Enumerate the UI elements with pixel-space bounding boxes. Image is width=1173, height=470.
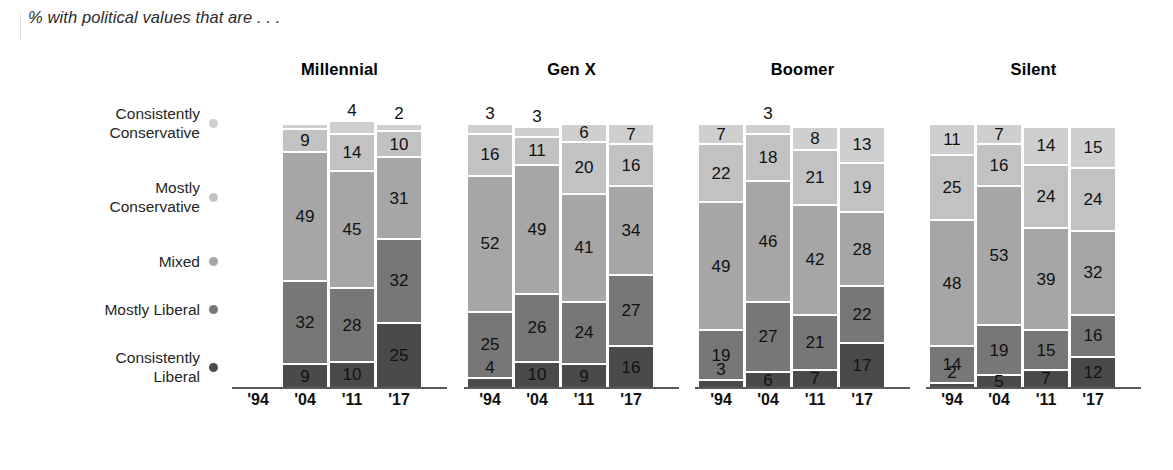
bar-segment-value: 13 xyxy=(853,136,872,153)
bar-segment[interactable]: 17 xyxy=(840,342,884,387)
bar-segment[interactable]: 49 xyxy=(283,151,327,279)
bar-segment[interactable]: 3 xyxy=(468,125,512,133)
bar-segment[interactable]: 10 xyxy=(515,361,559,387)
bar-segment-value: 15 xyxy=(1084,139,1103,156)
bar-segment[interactable]: 9 xyxy=(562,363,606,387)
bar-segment[interactable]: 20 xyxy=(562,141,606,193)
bar-segment[interactable]: 11 xyxy=(515,136,559,165)
bar-segment[interactable]: 16 xyxy=(468,133,512,175)
legend-item-consistently_conservative[interactable]: Consistently Conservative xyxy=(0,104,218,142)
stacked-bar[interactable]: 716342716 xyxy=(609,125,653,387)
bar-segment[interactable]: 27 xyxy=(609,274,653,345)
bar-segment[interactable]: 24 xyxy=(562,301,606,364)
bar-segment[interactable]: 42 xyxy=(793,204,837,314)
bar-segment[interactable]: 19 xyxy=(977,324,1021,374)
bar-segment[interactable]: 16 xyxy=(1071,314,1115,356)
bar-segment[interactable]: 49 xyxy=(515,164,559,292)
bar-segment[interactable]: 28 xyxy=(840,211,884,284)
x-axis-line xyxy=(232,387,447,389)
bar-segment[interactable]: 7 xyxy=(699,125,743,143)
bar-segment[interactable]: 16 xyxy=(609,345,653,387)
stacked-bar[interactable]: 414452810 xyxy=(330,122,374,387)
legend-item-mixed[interactable]: Mixed xyxy=(0,252,218,271)
bar-segment[interactable]: 7 xyxy=(1024,369,1068,387)
bar-segment[interactable]: 13 xyxy=(840,128,884,162)
bar-segment[interactable]: 28 xyxy=(330,287,374,360)
bar-segment[interactable]: 15 xyxy=(1071,128,1115,167)
x-axis-tick-label: '04 xyxy=(283,391,327,409)
stacked-bar[interactable]: 31652254 xyxy=(468,125,512,387)
bar-segment[interactable]: 15 xyxy=(1024,329,1068,368)
bar-segment[interactable]: 6 xyxy=(746,371,790,387)
bar-segment[interactable]: 34 xyxy=(609,185,653,274)
bar-segment[interactable]: 53 xyxy=(977,185,1021,324)
stacked-bar[interactable]: 31846276 xyxy=(746,125,790,387)
bar-segment-value: 9 xyxy=(300,368,309,385)
stacked-bar[interactable]: 949329 xyxy=(283,125,327,387)
stacked-bar[interactable]: 82142217 xyxy=(793,128,837,387)
bar-segment[interactable]: 32 xyxy=(283,280,327,364)
legend-item-mostly_conservative[interactable]: Mostly Conservative xyxy=(0,178,218,216)
bar-segment[interactable]: 24 xyxy=(1024,164,1068,227)
stacked-bar[interactable]: 72249193 xyxy=(699,125,743,387)
bar-segment[interactable]: 16 xyxy=(977,143,1021,185)
bar-segment[interactable]: 3 xyxy=(515,128,559,136)
bar-segment[interactable]: 27 xyxy=(746,301,790,372)
bar-segment[interactable]: 45 xyxy=(330,170,374,288)
bar-segment-value: 49 xyxy=(712,258,731,275)
bar-segment[interactable]: 52 xyxy=(468,175,512,311)
bar-segment[interactable]: 26 xyxy=(515,293,559,361)
stacked-bar[interactable]: 71653195 xyxy=(977,125,1021,387)
bar-segment[interactable]: 7 xyxy=(609,125,653,143)
bar-segment[interactable]: 9 xyxy=(283,363,327,387)
bar-segment[interactable]: 10 xyxy=(377,130,421,156)
bar-segment[interactable]: 19 xyxy=(840,162,884,212)
bar-segment[interactable]: 6 xyxy=(562,125,606,141)
stacked-bar[interactable]: 210313225 xyxy=(377,125,421,387)
bar-segment[interactable]: 22 xyxy=(699,143,743,201)
legend-item-consistently_liberal[interactable]: Consistently Liberal xyxy=(0,348,218,386)
bar-segment[interactable]: 48 xyxy=(930,219,974,345)
bar-segment[interactable]: 22 xyxy=(840,285,884,343)
bar-segment[interactable]: 14 xyxy=(1024,128,1068,165)
bar-segment[interactable]: 25 xyxy=(930,154,974,220)
stacked-bar[interactable]: 1524321612 xyxy=(1071,128,1115,387)
bar-segment[interactable]: 46 xyxy=(746,180,790,301)
bar-segment[interactable]: 10 xyxy=(330,361,374,387)
bar-segment[interactable]: 3 xyxy=(746,125,790,133)
bar-segment-value: 3 xyxy=(746,105,790,122)
bar-segment-value: 7 xyxy=(810,370,819,387)
chart-plot-area: Millennial'94'04'11'17949329414452810210… xyxy=(232,60,1166,444)
bar-segment[interactable]: 8 xyxy=(793,128,837,149)
bar-segment[interactable]: 9 xyxy=(283,128,327,152)
stacked-bar[interactable]: 112548142 xyxy=(930,125,974,387)
stacked-bar[interactable]: 62041249 xyxy=(562,125,606,387)
stacked-bar[interactable]: 142439157 xyxy=(1024,128,1068,387)
stacked-bar[interactable]: 311492610 xyxy=(515,128,559,387)
bar-segment[interactable]: 21 xyxy=(793,149,837,204)
bar-segment[interactable]: 7 xyxy=(793,369,837,387)
bar-segment[interactable]: 21 xyxy=(793,314,837,369)
bar-segment[interactable]: 14 xyxy=(330,133,374,170)
bar-segment[interactable]: 32 xyxy=(1071,230,1115,314)
bar-segment[interactable]: 25 xyxy=(377,322,421,388)
bar-segment[interactable]: 4 xyxy=(330,122,374,132)
bar-segment[interactable]: 12 xyxy=(1071,356,1115,387)
bar-segment[interactable]: 4 xyxy=(468,377,512,387)
bar-segment[interactable]: 11 xyxy=(930,125,974,154)
bar-segment[interactable]: 18 xyxy=(746,133,790,180)
bar-segment[interactable]: 49 xyxy=(699,201,743,329)
bar-segment[interactable]: 5 xyxy=(977,374,1021,387)
bar-segment[interactable]: 32 xyxy=(377,238,421,322)
bar-segment-value: 8 xyxy=(810,130,819,147)
bar-segment[interactable]: 39 xyxy=(1024,227,1068,329)
bar-segment[interactable]: 41 xyxy=(562,193,606,300)
stacked-bar[interactable]: 1319282217 xyxy=(840,128,884,387)
bar-segment[interactable]: 31 xyxy=(377,156,421,237)
bar-segment[interactable]: 7 xyxy=(977,125,1021,143)
bar-segment[interactable]: 24 xyxy=(1071,167,1115,230)
bar-segment[interactable]: 16 xyxy=(609,143,653,185)
legend-item-mostly_liberal[interactable]: Mostly Liberal xyxy=(0,300,218,319)
bar-segment[interactable]: 3 xyxy=(699,379,743,387)
bar-segment-value: 21 xyxy=(806,169,825,186)
